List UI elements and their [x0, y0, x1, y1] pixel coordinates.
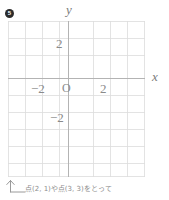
y-tick-label-negative-two: −2: [50, 111, 64, 124]
grid-lines: [8, 21, 145, 177]
x-axis-label: x: [152, 70, 158, 83]
x-tick-label-negative-two: −2: [31, 82, 45, 95]
origin-label: O: [62, 82, 71, 94]
coordinate-plane-figure: 5: [0, 0, 169, 200]
grid-area: [8, 21, 145, 177]
y-axis-label: y: [66, 3, 72, 16]
y-tick-label-positive-two: 2: [56, 37, 63, 50]
x-tick-label-positive-two: 2: [100, 82, 107, 95]
problem-number-badge: 5: [5, 9, 14, 18]
hint-text: 点(2, 1)や点(3, 3)をとって: [25, 186, 112, 193]
up-arrow-icon: [5, 178, 27, 196]
